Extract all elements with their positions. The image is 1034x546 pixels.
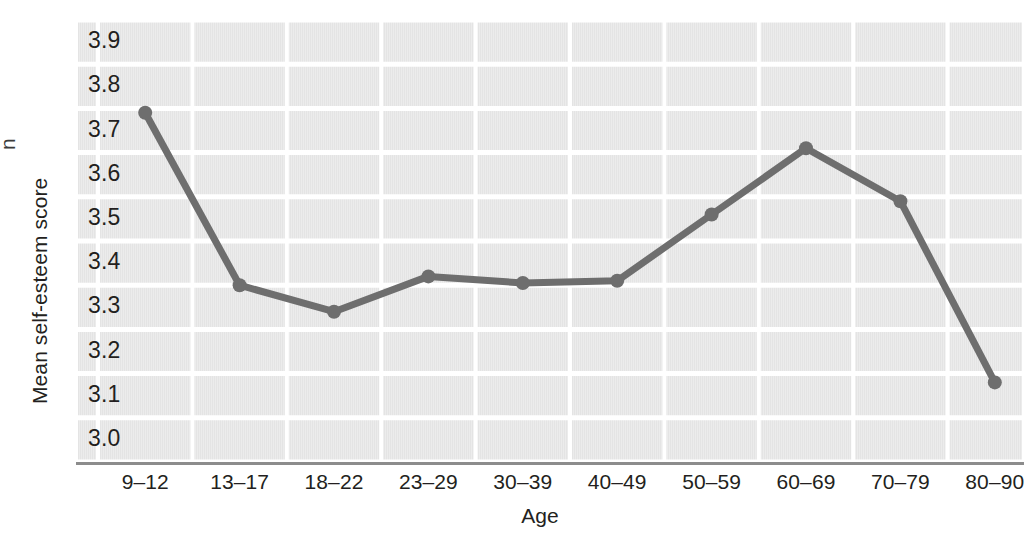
y-tick-label: 3.9 bbox=[88, 27, 142, 54]
y-tick-label: 3.1 bbox=[88, 381, 142, 408]
x-tick-label: 18–22 bbox=[305, 470, 364, 494]
data-point: 18–22: 3.29 bbox=[327, 305, 341, 319]
y-tick-label: 3.5 bbox=[88, 204, 142, 231]
data-point: 13–17: 3.35 bbox=[233, 278, 247, 292]
y-tick-label: 3.7 bbox=[88, 116, 142, 143]
y-tick-label: 3.6 bbox=[88, 160, 142, 187]
x-tick-label: 50–59 bbox=[682, 470, 741, 494]
data-series-line: 9–12: 3.7413–17: 3.3518–22: 3.2923–29: 3… bbox=[78, 20, 1022, 462]
x-tick-label: 13–17 bbox=[210, 470, 269, 494]
y-tick-label: 3.3 bbox=[88, 292, 142, 319]
x-axis-title: Age bbox=[521, 504, 558, 528]
x-tick-label: 70–79 bbox=[871, 470, 930, 494]
chart-figure: n Mean self-esteem score 9–12: 3.7413–17… bbox=[0, 0, 1034, 546]
data-point: 30–39: 3.355 bbox=[516, 276, 530, 290]
data-point: 80–90: 3.13 bbox=[988, 375, 1002, 389]
x-tick-label: 80–90 bbox=[965, 470, 1024, 494]
x-tick-label: 23–29 bbox=[399, 470, 458, 494]
data-point: 60–69: 3.66 bbox=[799, 141, 813, 155]
y-tick-label: 3.8 bbox=[88, 71, 142, 98]
y-axis-title: Mean self-esteem score bbox=[28, 178, 52, 404]
y-tick-label: 3.0 bbox=[88, 425, 142, 452]
data-point: 70–79: 3.54 bbox=[893, 194, 907, 208]
x-tick-label: 30–39 bbox=[493, 470, 552, 494]
x-axis-line bbox=[76, 462, 1024, 465]
data-point: 23–29: 3.37 bbox=[421, 269, 435, 283]
plot-area: 9–12: 3.7413–17: 3.3518–22: 3.2923–29: 3… bbox=[78, 20, 1022, 462]
page-bleed-glyph: n bbox=[0, 138, 20, 150]
data-point: 40–49: 3.36 bbox=[610, 274, 624, 288]
y-tick-label: 3.2 bbox=[88, 337, 142, 364]
y-tick-label: 3.4 bbox=[88, 248, 142, 275]
x-tick-label: 9–12 bbox=[122, 470, 169, 494]
x-tick-label: 60–69 bbox=[777, 470, 836, 494]
x-tick-label: 40–49 bbox=[588, 470, 647, 494]
data-point: 50–59: 3.51 bbox=[705, 208, 719, 222]
